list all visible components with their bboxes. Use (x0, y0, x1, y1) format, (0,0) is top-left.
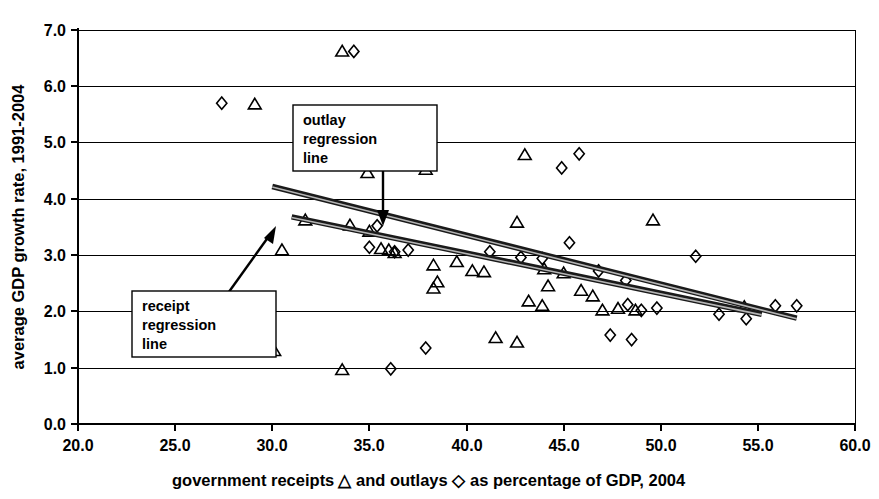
diamond-marker-icon: ◇ (451, 471, 466, 489)
receipt-callout-line2: regression (142, 317, 216, 333)
receipt-regression-line-highlight (292, 217, 762, 314)
triangle-marker-icon: △ (337, 471, 352, 489)
outlay-point-marker (386, 363, 396, 375)
receipt-point-marker (489, 332, 502, 343)
y-tick-labels: 7.0 6.0 5.0 4.0 3.0 2.0 1.0 0.0 (44, 22, 66, 433)
receipt-callout-line1: receipt (142, 298, 190, 314)
receipt-point-marker (575, 285, 588, 296)
outlay-regression-line-highlight (272, 187, 796, 319)
x-axis-title-part1: government receipts (172, 471, 334, 489)
receipt-point-marker (276, 244, 289, 255)
outlay-point-marker (421, 342, 431, 354)
y-tick-label: 1.0 (44, 360, 66, 377)
y-tick-label: 6.0 (44, 78, 66, 95)
receipt-point-marker (466, 265, 479, 276)
outlay-point-marker (605, 329, 615, 341)
y-tick-label: 3.0 (44, 247, 66, 264)
outlay-point-marker (623, 299, 633, 311)
receipt-point-marker (478, 266, 491, 277)
y-tick-label: 2.0 (44, 303, 66, 320)
outlay-point-marker (403, 244, 413, 256)
x-tick-label: 50.0 (645, 437, 676, 454)
outlay-callout-line1: outlay (303, 112, 346, 128)
receipt-point-marker (427, 259, 440, 270)
receipt-point-marker (522, 295, 535, 306)
receipt-point-marker (248, 98, 261, 109)
receipt-point-marker (518, 149, 531, 160)
x-tick-label: 25.0 (159, 437, 190, 454)
receipt-point-marker (431, 276, 444, 287)
x-axis-title: government receipts △ and outlays ◇ as p… (172, 471, 686, 489)
x-tick-label: 35.0 (353, 437, 384, 454)
outlay-point-marker (626, 333, 636, 345)
outlay-point-marker (349, 45, 359, 57)
x-tick-label: 60.0 (839, 437, 870, 454)
x-tick-label: 45.0 (548, 437, 579, 454)
x-tick-labels: 20.0 25.0 30.0 35.0 40.0 45.0 50.0 55.0 … (62, 437, 870, 454)
x-tick-label: 55.0 (742, 437, 773, 454)
regression-lines (272, 186, 796, 318)
x-tick-label: 20.0 (62, 437, 93, 454)
x-tick-label: 30.0 (256, 437, 287, 454)
x-axis-title-part2: and outlays (356, 471, 448, 489)
y-tick-label: 4.0 (44, 191, 66, 208)
y-axis-title: average GDP growth rate, 1991-2004 (9, 84, 27, 370)
receipt-point-marker (450, 256, 463, 267)
x-tick-label: 40.0 (451, 437, 482, 454)
outlay-point-marker (564, 237, 574, 249)
chart-container: 7.0 6.0 5.0 4.0 3.0 2.0 1.0 0.0 20.0 25.… (0, 0, 879, 499)
receipt-callout: receipt regression line (132, 226, 276, 357)
y-tick-label: 7.0 (44, 22, 66, 39)
receipt-callout-line3: line (142, 336, 167, 352)
outlay-point-marker (557, 162, 567, 174)
y-tick-label: 5.0 (44, 134, 66, 151)
receipt-callout-arrow (226, 236, 269, 296)
outlay-point-marker (652, 302, 662, 314)
outlay-point-marker (691, 250, 701, 262)
y-tick-label: 0.0 (44, 416, 66, 433)
outlay-point-marker (574, 148, 584, 160)
data-markers (217, 45, 802, 375)
receipt-point-marker (511, 216, 524, 227)
receipt-point-marker (542, 280, 555, 291)
receipt-point-marker (536, 300, 549, 311)
receipt-point-marker (336, 364, 349, 375)
receipt-point-marker (647, 214, 660, 225)
receipt-point-marker (336, 45, 349, 56)
outlay-point-marker (714, 308, 724, 320)
x-axis-title-part3: as percentage of GDP, 2004 (470, 471, 686, 489)
outlay-callout-line2: regression (303, 131, 377, 147)
scatter-plot: 7.0 6.0 5.0 4.0 3.0 2.0 1.0 0.0 20.0 25.… (0, 0, 879, 499)
outlay-point-marker (364, 241, 374, 253)
outlay-point-marker (217, 97, 227, 109)
outlay-point-marker (372, 220, 382, 232)
receipt-point-marker (511, 336, 524, 347)
receipt-point-marker (596, 304, 609, 315)
outlay-point-marker (792, 300, 802, 312)
outlay-callout-line3: line (303, 150, 328, 166)
